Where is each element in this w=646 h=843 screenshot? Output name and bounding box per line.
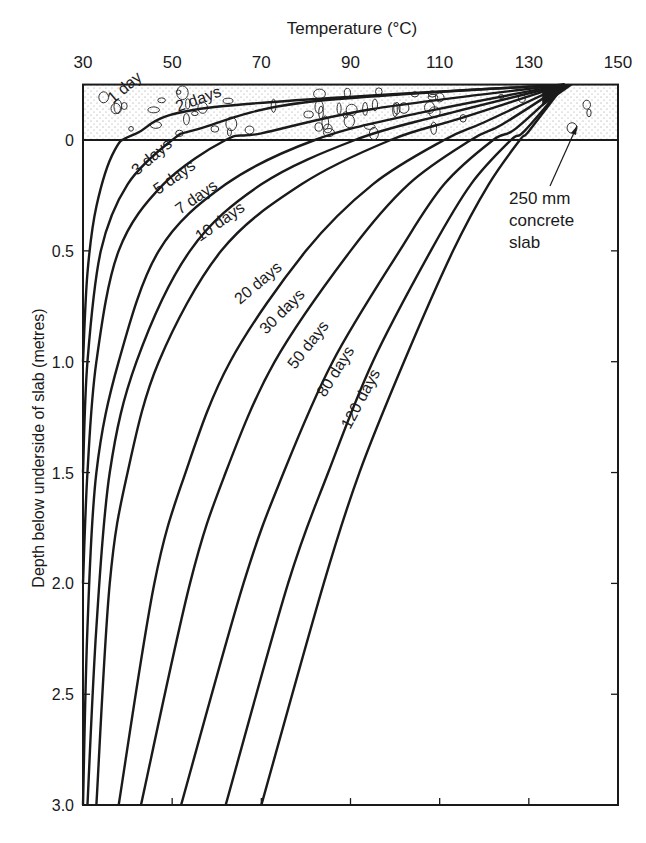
y-tick-label: 2.5	[52, 686, 74, 703]
x-tick-label: 30	[74, 53, 93, 72]
curve-label: 80 days	[313, 343, 357, 400]
slab-annotation: 250 mm concrete slab	[509, 126, 577, 252]
curve-label: 30 days	[256, 285, 308, 337]
y-tick-label: 0.5	[52, 243, 74, 260]
curve-label: 20 days	[231, 258, 285, 307]
x-axis-title: Temperature (°C)	[287, 19, 418, 38]
temperature-depth-chart: Temperature (°C) 30507090110130150 Depth…	[0, 0, 646, 843]
y-axis-title: Depth below underside of slab (metres)	[30, 308, 47, 587]
y-tick-label: 1.0	[52, 354, 74, 371]
annotation-line2: concrete	[509, 211, 574, 230]
y-tick-label: 0	[65, 132, 74, 149]
x-tick-label: 50	[163, 53, 182, 72]
y-tick-label: 2.0	[52, 575, 74, 592]
y-tick-label: 3.0	[52, 797, 74, 814]
annotation-line3: slab	[509, 233, 540, 252]
x-tick-label: 130	[515, 53, 543, 72]
x-tick-label: 110	[426, 53, 453, 72]
curve-50-days	[181, 85, 564, 806]
x-tick-label: 70	[252, 53, 271, 72]
y-tick-label: 1.5	[52, 465, 74, 482]
x-tick-label: 90	[341, 53, 360, 72]
curve-label: 50 days	[284, 317, 332, 372]
x-tick-label: 150	[604, 53, 632, 72]
annotation-line1: 250 mm	[509, 189, 570, 208]
curve-label: 10 days	[192, 198, 248, 244]
curve-20-days	[119, 85, 565, 806]
curve-10-days	[96, 85, 564, 806]
curve-label: 120 days	[338, 366, 383, 431]
